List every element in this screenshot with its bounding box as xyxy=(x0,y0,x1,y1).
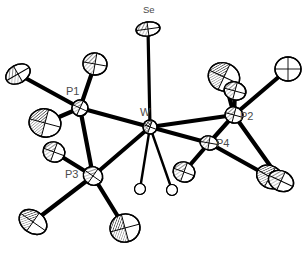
molecular-structure-diagram: SeWP1P2P3P4 xyxy=(0,0,306,254)
atom-c3 xyxy=(26,105,64,140)
atom-h1 xyxy=(135,184,146,195)
bond-w-h2 xyxy=(150,127,172,190)
atom-c1 xyxy=(2,60,34,89)
label-p1: P1 xyxy=(66,85,79,97)
bond-w-p2 xyxy=(150,115,234,127)
atom-c2 xyxy=(81,51,108,77)
atom-c9 xyxy=(275,57,301,81)
atom-c4 xyxy=(40,139,68,165)
atom-c6 xyxy=(107,211,143,246)
label-p3: P3 xyxy=(65,168,78,180)
label-p4: P4 xyxy=(216,137,229,149)
label-w: W xyxy=(140,106,151,118)
figure-canvas: SeWP1P2P3P4 xyxy=(0,0,306,254)
atom-h2 xyxy=(167,185,178,196)
bond-w-p3 xyxy=(93,127,150,176)
atom-p1 xyxy=(69,97,90,118)
label-p2: P2 xyxy=(240,110,253,122)
label-se: Se xyxy=(143,4,155,15)
bond-p1-p3 xyxy=(80,108,93,176)
atom-se xyxy=(135,20,161,37)
